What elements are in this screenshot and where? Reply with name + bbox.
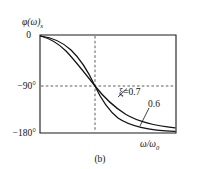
figure-caption: (b) (94, 154, 105, 165)
phase-plot-svg: φ(ω)x 0 −90° −180° ω/ω0 ξ=0.7 0.6 (b) (0, 0, 200, 169)
curve-label-zeta-0-7: ξ=0.7 (119, 87, 141, 98)
y-axis-title-subscript: x (39, 22, 43, 29)
svg-text:φ(ω)x: φ(ω)x (22, 17, 43, 29)
y-axis-title: φ(ω)x (22, 17, 43, 29)
curve-label-zeta-0-6: 0.6 (148, 99, 160, 109)
y-tick-label-0: 0 (26, 30, 31, 40)
y-tick-label-minus-180: −180° (13, 128, 37, 138)
y-axis-title-text: φ(ω) (22, 17, 40, 28)
y-tick-label-minus-90: −90° (17, 81, 36, 91)
phase-response-figure: φ(ω)x 0 −90° −180° ω/ω0 ξ=0.7 0.6 (b) (0, 0, 200, 169)
